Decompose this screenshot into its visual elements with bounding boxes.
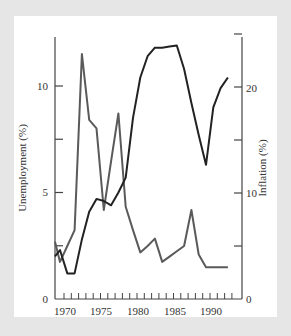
right-axis-title: Inflation (%) xyxy=(256,139,269,196)
x-tick-label-1985: 1985 xyxy=(164,305,187,317)
right-tick-label-20: 20 xyxy=(246,82,258,94)
chart-svg: 0 5 10 0 10 20 1970 1975 1980 1985 1990 … xyxy=(0,0,291,336)
right-tick-label-0: 0 xyxy=(246,293,252,305)
left-axis-ticks xyxy=(55,86,63,246)
x-axis-ticks xyxy=(64,293,232,299)
left-tick-label-5: 5 xyxy=(43,186,49,198)
left-tick-label-0: 0 xyxy=(43,293,49,305)
x-tick-label-1975: 1975 xyxy=(90,305,113,317)
x-tick-label-1990: 1990 xyxy=(200,305,223,317)
x-tick-label-1980: 1980 xyxy=(127,305,150,317)
left-axis-title: Unemployment (%) xyxy=(16,124,29,212)
x-tick-label-1970: 1970 xyxy=(54,305,77,317)
inflation-series-line xyxy=(55,54,228,267)
left-tick-label-10: 10 xyxy=(37,80,49,92)
right-axis-ticks xyxy=(234,34,242,246)
